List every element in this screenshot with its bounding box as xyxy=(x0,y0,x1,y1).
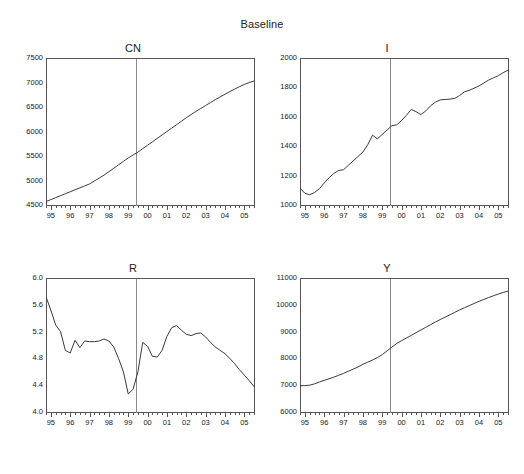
y-tick-label: 6.0 xyxy=(33,274,43,282)
y-tick-label: 6500 xyxy=(26,103,43,111)
axis-frame xyxy=(47,279,255,413)
x-tick-label: 98 xyxy=(105,212,113,220)
panel-title-i: I xyxy=(266,42,508,54)
x-tick-label: 98 xyxy=(359,212,367,220)
x-tick-label: 02 xyxy=(182,212,190,220)
x-tick-label: 95 xyxy=(301,419,309,427)
x-tick-label: 99 xyxy=(378,212,386,220)
x-tick-label: 00 xyxy=(397,212,405,220)
x-tick-label: 99 xyxy=(124,419,132,427)
y-tick-label: 7000 xyxy=(26,79,43,87)
x-tick-label: 04 xyxy=(221,419,229,427)
series-line-i xyxy=(300,70,508,195)
x-tick-label: 02 xyxy=(436,419,444,427)
x-tick-label: 96 xyxy=(66,419,74,427)
y-tick-label: 6000 xyxy=(26,128,43,136)
x-tick-label: 01 xyxy=(163,419,171,427)
x-tick-label: 03 xyxy=(201,212,209,220)
x-tick-label: 01 xyxy=(417,419,425,427)
chart-panel-cn: CN75007000650060005500500045009596979899… xyxy=(12,42,254,223)
x-tick-label: 03 xyxy=(455,419,463,427)
x-tick-label: 96 xyxy=(320,419,328,427)
y-tick-label: 5500 xyxy=(26,152,43,160)
y-tick-label: 1400 xyxy=(280,142,297,150)
y-tick-label: 4.8 xyxy=(33,354,43,362)
x-tick-label: 97 xyxy=(85,419,93,427)
x-tick-label: 03 xyxy=(201,419,209,427)
y-tick-label: 9000 xyxy=(280,328,297,336)
y-tick-label: 4.0 xyxy=(33,408,43,416)
y-tick-label: 1600 xyxy=(280,113,297,121)
x-tick-label: 98 xyxy=(105,419,113,427)
x-tick-label: 01 xyxy=(163,212,171,220)
y-tick-label: 10000 xyxy=(276,301,297,309)
chart-panel-i: I200018001600140012001000959697989900010… xyxy=(266,42,508,223)
chart-panel-y: Y110001000090008000700060009596979899000… xyxy=(266,262,508,430)
x-tick-label: 04 xyxy=(475,212,483,220)
x-tick-label: 99 xyxy=(378,419,386,427)
y-tick-label: 5.2 xyxy=(33,328,43,336)
series-line-y xyxy=(300,291,508,386)
x-tick-label: 05 xyxy=(240,212,248,220)
y-axis-labels-y: 11000100009000800070006000 xyxy=(266,278,300,412)
x-tick-label: 02 xyxy=(436,212,444,220)
panel-title-cn: CN xyxy=(12,42,254,54)
plot-area-y xyxy=(300,278,509,419)
panel-title-r: R xyxy=(12,262,254,274)
panel-title-y: Y xyxy=(266,262,508,274)
x-tick-label: 95 xyxy=(47,212,55,220)
x-tick-label: 96 xyxy=(66,212,74,220)
x-tick-label: 04 xyxy=(221,212,229,220)
y-tick-label: 5000 xyxy=(26,177,43,185)
series-line-r xyxy=(46,297,254,394)
x-tick-label: 97 xyxy=(339,212,347,220)
plot-area-r xyxy=(46,278,255,419)
y-tick-label: 1200 xyxy=(280,172,297,180)
y-tick-label: 7500 xyxy=(26,54,43,62)
x-tick-label: 00 xyxy=(143,212,151,220)
chart-panel-r: R6.05.65.24.84.44.0959697989900010203040… xyxy=(12,262,254,430)
y-axis-labels-i: 200018001600140012001000 xyxy=(266,58,300,205)
y-tick-label: 8000 xyxy=(280,354,297,362)
y-tick-label: 2000 xyxy=(280,54,297,62)
x-tick-label: 00 xyxy=(397,419,405,427)
x-tick-label: 95 xyxy=(301,212,309,220)
figure-title: Baseline xyxy=(0,18,524,30)
x-tick-label: 97 xyxy=(85,212,93,220)
y-tick-label: 1000 xyxy=(280,201,297,209)
x-tick-label: 97 xyxy=(339,419,347,427)
x-tick-label: 01 xyxy=(417,212,425,220)
x-tick-label: 05 xyxy=(494,212,502,220)
axis-frame xyxy=(47,59,255,206)
x-tick-label: 05 xyxy=(240,419,248,427)
y-tick-label: 1800 xyxy=(280,83,297,91)
y-tick-label: 4.4 xyxy=(33,381,43,389)
x-tick-label: 95 xyxy=(47,419,55,427)
x-tick-label: 03 xyxy=(455,212,463,220)
y-axis-labels-r: 6.05.65.24.84.44.0 xyxy=(12,278,46,412)
y-tick-label: 11000 xyxy=(277,274,297,282)
x-tick-label: 98 xyxy=(359,419,367,427)
x-tick-label: 05 xyxy=(494,419,502,427)
x-tick-label: 99 xyxy=(124,212,132,220)
y-axis-labels-cn: 7500700065006000550050004500 xyxy=(12,58,46,205)
x-tick-label: 96 xyxy=(320,212,328,220)
y-tick-label: 4500 xyxy=(26,201,43,209)
y-tick-label: 5.6 xyxy=(33,301,43,309)
x-tick-label: 04 xyxy=(475,419,483,427)
figure-canvas: Baseline CN75007000650060005500500045009… xyxy=(0,0,524,474)
axis-frame xyxy=(301,279,509,413)
y-tick-label: 7000 xyxy=(280,381,297,389)
y-tick-label: 6000 xyxy=(280,408,297,416)
x-tick-label: 02 xyxy=(182,419,190,427)
plot-area-i xyxy=(300,58,509,212)
plot-area-cn xyxy=(46,58,255,212)
x-tick-label: 00 xyxy=(143,419,151,427)
axis-frame xyxy=(301,59,509,206)
series-line-cn xyxy=(46,81,254,202)
